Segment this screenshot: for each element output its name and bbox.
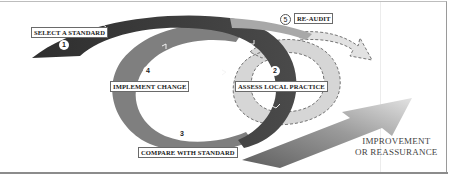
step-3-label: COMPARE WITH STANDARD (138, 147, 238, 158)
outcome-text: IMPROVEMENT OR REASSURANCE (355, 136, 438, 158)
step-4-label: IMPLEMENT CHANGE (110, 81, 189, 92)
step-5-number-badge: 5 (280, 14, 291, 25)
step-5-label: RE-AUDIT (294, 13, 333, 24)
step-1-number-badge: 1 (59, 40, 69, 50)
step-3-number-badge: 3 (177, 129, 187, 139)
step-2-number-badge: 2 (270, 66, 280, 76)
outcome-line-2: OR REASSURANCE (355, 147, 438, 158)
step-4-number-badge: 4 (143, 66, 153, 76)
audit-cycle-diagram: SELECT A STANDARD 1 2 ASSESS LOCAL PRACT… (0, 0, 462, 178)
step-2-label: ASSESS LOCAL PRACTICE (235, 81, 328, 92)
outcome-line-1: IMPROVEMENT (355, 136, 438, 147)
step-1-label: SELECT A STANDARD (31, 27, 108, 38)
